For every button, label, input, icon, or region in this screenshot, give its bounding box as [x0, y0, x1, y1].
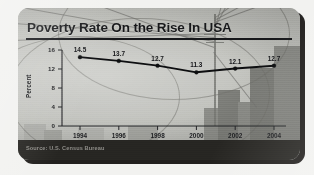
- x-tick-label: 2000: [189, 132, 204, 139]
- point-value-label: 14.5: [74, 46, 87, 53]
- y-tick-label: 12: [48, 65, 55, 72]
- point-value-label: 11.3: [190, 61, 203, 68]
- x-tick-label: 1994: [73, 132, 88, 139]
- y-tick-label: 16: [48, 46, 55, 53]
- series-label-group: 14.513.712.711.312.112.7: [74, 46, 281, 68]
- chart-card: Poverty Rate On the Rise In USA 1612840 …: [18, 8, 300, 160]
- y-tick-label: 4: [52, 103, 56, 110]
- series-line-poverty-rate: [80, 57, 274, 72]
- series-point: [195, 70, 199, 74]
- x-tick-label: 1996: [112, 132, 127, 139]
- point-value-label: 12.7: [151, 55, 164, 62]
- point-value-label: 13.7: [113, 50, 126, 57]
- y-tick-label: 0: [52, 122, 56, 129]
- x-tick-group: 199419961998200020022004: [73, 126, 282, 139]
- y-axis-title: Percent: [25, 74, 32, 98]
- point-value-label: 12.1: [229, 58, 242, 65]
- source-note: Source: U.S. Census Bureau: [26, 145, 104, 151]
- series-point: [233, 67, 237, 71]
- series-point-group: [78, 55, 276, 74]
- line-chart-svg: 1612840 199419961998200020022004 Percent…: [18, 38, 300, 142]
- x-tick-label: 1998: [150, 132, 165, 139]
- y-tick-group: 1612840: [48, 46, 62, 129]
- y-tick-label: 8: [52, 84, 56, 91]
- page-title: Poverty Rate On the Rise In USA: [27, 20, 232, 35]
- point-value-label: 12.7: [268, 55, 281, 62]
- photo-frame: Poverty Rate On the Rise In USA 1612840 …: [0, 0, 314, 175]
- series-point: [78, 55, 82, 59]
- plot-area: 1612840 199419961998200020022004 Percent…: [18, 38, 300, 142]
- series-point: [272, 64, 276, 68]
- series-point: [156, 64, 160, 68]
- series-point: [117, 59, 121, 63]
- footer-band: Source: U.S. Census Bureau: [18, 140, 300, 160]
- x-tick-label: 2004: [267, 132, 282, 139]
- x-tick-label: 2002: [228, 132, 243, 139]
